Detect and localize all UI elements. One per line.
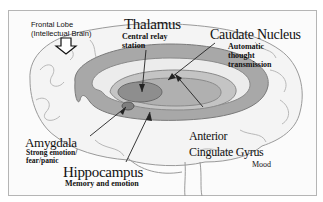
thalamus-desc-line1: Central relay [122,33,167,41]
amygdala-desc-line2: fear/panic [26,157,59,165]
caudate-nucleus-label: Caudate Nucleus [210,28,301,42]
brain-stem [185,162,202,196]
frontal-lobe-desc: (Intellectual Brain) [31,30,91,38]
thalamus-desc-line2: station [122,42,145,50]
anterior-cingulate-label-line1: Anterior [189,130,227,142]
thalamus-label: Thalamus [124,17,181,32]
caudate-desc-line3: transmission [228,61,272,69]
caudate-desc-line2: thought [228,52,255,60]
anterior-cingulate-desc: Mood [252,161,271,169]
hippocampus-label: Hippocampus [63,165,143,180]
frontal-lobe-label: Frontal Lobe [31,21,73,29]
caudate-desc-line1: Automatic [228,43,264,51]
anterior-cingulate-label-line2: Cingulate Gyrus [189,146,264,158]
hippocampus-desc: Memory and emotion [65,180,139,188]
